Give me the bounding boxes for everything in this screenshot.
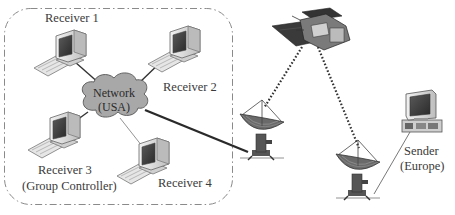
- sender-location-label: (Europe): [400, 159, 444, 173]
- receiver-3-label: Receiver 3: [38, 163, 92, 177]
- network-cloud: Network (USA): [82, 73, 147, 117]
- network-label: Network: [93, 86, 135, 100]
- satellite-icon: [272, 8, 350, 50]
- network-region-label: (USA): [98, 100, 130, 114]
- sender-label: Sender: [404, 144, 440, 158]
- computer-icon: [34, 30, 86, 76]
- computer-icon: [28, 112, 80, 158]
- receiver-3-role-label: (Group Controller): [22, 179, 117, 193]
- receiver-4: Receiver 4: [117, 138, 213, 190]
- diagram-canvas: Network (USA) Receiver 1 Receiver 2 Rece…: [0, 0, 455, 215]
- computer-icon: [148, 26, 200, 72]
- receiver-4-label: Receiver 4: [158, 176, 213, 190]
- computer-icon: [402, 90, 442, 132]
- sender: Sender (Europe): [400, 90, 444, 173]
- receiver-3: Receiver 3 (Group Controller): [22, 112, 117, 193]
- ground-station-europe-icon: [336, 140, 380, 200]
- receiver-1: Receiver 1: [34, 11, 99, 76]
- receiver-2-label: Receiver 2: [163, 80, 217, 94]
- satellite-links: [264, 47, 359, 148]
- receiver-2: Receiver 2: [148, 26, 217, 94]
- receiver-1-label: Receiver 1: [45, 11, 99, 25]
